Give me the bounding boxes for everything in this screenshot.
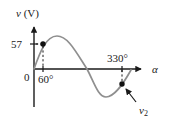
y-axis-title: v (V) bbox=[16, 7, 39, 20]
x-axis-title: α bbox=[152, 63, 158, 75]
x-tick-label-330: 330° bbox=[107, 52, 128, 64]
sine-curve bbox=[34, 36, 131, 97]
v2-label: v2 bbox=[139, 104, 148, 118]
x-tick-label-60: 60° bbox=[38, 73, 53, 85]
data-point-60deg bbox=[40, 41, 45, 46]
waveform-figure: v (V) 57 0 60° 330° α v2 bbox=[0, 0, 169, 123]
origin-label: 0 bbox=[24, 71, 30, 83]
data-point-330deg bbox=[119, 81, 124, 86]
y-tick-label-57: 57 bbox=[11, 38, 23, 50]
v2-pointer-arrow bbox=[126, 89, 136, 102]
sine-wave-plot: v (V) 57 0 60° 330° α v2 bbox=[0, 0, 169, 123]
